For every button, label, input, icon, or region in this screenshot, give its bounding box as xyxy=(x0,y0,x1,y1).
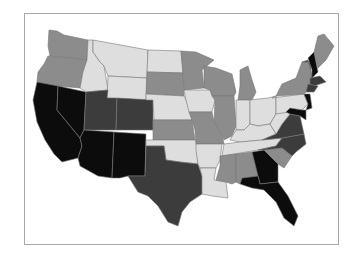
state-nd xyxy=(147,50,183,73)
state-nm xyxy=(112,132,146,178)
state-in xyxy=(236,100,250,130)
state-wa xyxy=(48,30,88,60)
state-mi xyxy=(238,66,256,100)
state-fl xyxy=(240,176,298,226)
state-me xyxy=(314,34,334,68)
state-ar xyxy=(196,144,222,168)
state-ks xyxy=(153,120,195,140)
us-choropleth-map xyxy=(0,0,355,253)
state-co xyxy=(116,98,153,130)
state-az xyxy=(78,130,114,178)
state-ma xyxy=(310,76,326,86)
state-sd xyxy=(146,72,184,96)
state-wy xyxy=(107,76,147,100)
state-ia xyxy=(184,90,215,112)
